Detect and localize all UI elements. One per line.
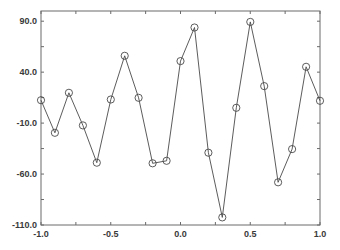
y-tick-label: 90.0 xyxy=(19,16,37,26)
x-tick-label: 0.5 xyxy=(244,229,257,239)
data-series-line xyxy=(41,22,320,218)
line-chart: 90.040.0-10.0-60.0-110.0 -1.0-0.50.00.51… xyxy=(0,0,340,250)
x-tick-label: 0.0 xyxy=(174,229,187,239)
axis-ticks xyxy=(41,11,320,225)
y-tick-label: 40.0 xyxy=(19,67,37,77)
y-tick-label: -60.0 xyxy=(16,169,37,179)
plot-frame xyxy=(41,11,320,225)
x-tick-label: -1.0 xyxy=(33,229,49,239)
y-tick-label: -10.0 xyxy=(16,118,37,128)
x-axis-labels: -1.0-0.50.00.51.0 xyxy=(33,229,326,239)
x-tick-label: -0.5 xyxy=(103,229,119,239)
x-tick-label: 1.0 xyxy=(314,229,327,239)
y-axis-labels: 90.040.0-10.0-60.0-110.0 xyxy=(12,16,37,230)
